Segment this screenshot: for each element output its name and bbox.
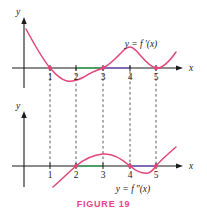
top-graph-tick-label-3: 3 [101,72,106,82]
top-graph: y x 1 2 3 4 5 y = f ′(x) [12,7,194,88]
bottom-graph-y-axis-arrow [21,111,26,118]
bottom-graph-x-axis-label: x [188,161,194,171]
top-graph-zero-point-x5 [154,66,158,70]
bottom-graph-zero-point-x5 [154,164,158,168]
bottom-graph-curve-label: y = f ″(x) [115,184,150,195]
bottom-graph-tick-label-3: 3 [101,170,106,180]
top-graph-tick-label-5: 5 [154,72,159,82]
top-graph-y-axis-label: y [15,7,21,17]
bottom-graph-x-axis-arrow [176,163,183,168]
bottom-graph-tick-label-2: 2 [74,170,79,180]
bottom-graph-y-axis-label: y [15,101,21,111]
figure-19-graphs: y x 1 2 3 4 5 y = f ′(x) [0,0,207,223]
bottom-graph-tick-label-5: 5 [154,170,159,180]
bottom-graph-zero-point-x2 [74,164,78,168]
top-graph-tick-label-1: 1 [48,72,53,82]
top-graph-zero-point-x3 [101,66,105,70]
top-graph-curve-label: y = f ′(x) [124,39,158,50]
figure-caption: FIGURE 19 [0,199,207,209]
bottom-graph-tick-label-4: 4 [128,170,133,180]
bottom-graph-tick-label-1: 1 [48,170,53,180]
top-graph-y-axis-arrow [21,17,26,24]
bottom-graph-zero-point-x4 [128,164,132,168]
top-graph-x-axis-label: x [188,63,194,73]
top-graph-tick-label-2: 2 [74,72,79,82]
top-graph-x-axis-arrow [176,65,183,70]
top-graph-zero-point-x1 [48,66,52,70]
top-graph-tick-label-4: 4 [128,72,133,82]
figure-container: y x 1 2 3 4 5 y = f ′(x) [0,0,207,223]
